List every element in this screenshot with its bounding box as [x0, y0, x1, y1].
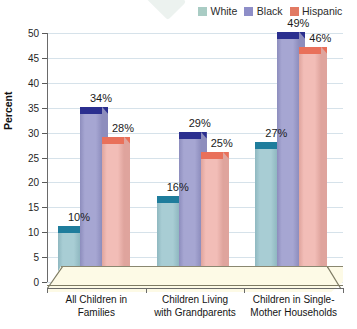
bar-top-cap [201, 152, 223, 159]
chart-legend: WhiteBlackHispanic [198, 6, 342, 17]
bar-value-label: 10% [68, 211, 90, 223]
x-axis-line [47, 288, 343, 289]
y-tick-mark [42, 158, 47, 159]
plot-area [47, 33, 343, 282]
bar-top-cap [58, 226, 80, 233]
bar-face [179, 138, 201, 282]
legend-swatch-black [244, 7, 253, 16]
x-tick-mark [146, 288, 147, 293]
legend-swatch-hispanic [290, 7, 299, 16]
bar-chart: WhiteBlackHispanic Percent 0510152025303… [0, 0, 357, 329]
legend-label-black: Black [257, 6, 283, 17]
bar-top-cap [277, 32, 299, 39]
bar-value-label: 25% [211, 137, 233, 149]
bar-face [201, 158, 223, 283]
bar-hispanic-group2 [201, 158, 223, 283]
y-tick-label: 50 [28, 28, 39, 39]
bar-value-label: 46% [309, 32, 331, 44]
bar-side [124, 137, 130, 276]
bar-value-label: 16% [167, 181, 189, 193]
x-category-label: Children Living with Grandparents [141, 294, 250, 319]
y-tick-label: 15 [28, 202, 39, 213]
bar-top-cap [179, 132, 201, 139]
floor-front-edge [47, 285, 343, 286]
y-tick-label: 35 [28, 102, 39, 113]
bar-black-group2 [179, 138, 201, 282]
y-tick-mark [42, 83, 47, 84]
bar-black-group3 [277, 38, 299, 282]
legend-swatch-white [198, 7, 207, 16]
y-tick-label: 5 [33, 252, 39, 263]
x-category-label: Children in Single- Mother Households [239, 294, 348, 319]
bar-top-cap [255, 142, 277, 149]
bar-face [299, 53, 321, 282]
bar-top-cap [299, 47, 321, 54]
bar-white-group3 [255, 148, 277, 282]
bar-side [321, 47, 327, 276]
y-tick-mark [42, 232, 47, 233]
floor-back-edge [61, 266, 343, 267]
x-tick-mark [343, 288, 344, 293]
y-tick-mark [42, 58, 47, 59]
scan-artifact [144, 0, 186, 20]
bar-value-label: 49% [287, 17, 309, 29]
floor-left-edge-icon [47, 266, 63, 290]
y-tick-mark [42, 33, 47, 34]
bar-face [255, 148, 277, 282]
bar-black-group1 [80, 113, 102, 282]
bar-top-cap [80, 107, 102, 114]
bar-value-label: 27% [265, 127, 287, 139]
bar-value-label: 34% [90, 92, 112, 104]
bar-face [102, 143, 124, 282]
bar-side [223, 152, 229, 277]
y-tick-mark [42, 182, 47, 183]
y-tick-mark [42, 257, 47, 258]
y-tick-mark [42, 282, 47, 283]
bar-face [80, 113, 102, 282]
y-tick-label: 20 [28, 177, 39, 188]
x-category-label: All Children in Families [42, 294, 151, 319]
y-tick-label: 45 [28, 52, 39, 63]
legend-item-white[interactable]: White [198, 6, 237, 17]
bar-top-cap [102, 137, 124, 144]
y-axis-line [47, 33, 48, 282]
y-tick-mark [42, 108, 47, 109]
y-tick-label: 30 [28, 127, 39, 138]
legend-label-hispanic: Hispanic [302, 6, 342, 17]
x-tick-mark [244, 288, 245, 293]
legend-item-black[interactable]: Black [244, 6, 282, 17]
y-tick-mark [42, 207, 47, 208]
y-tick-label: 40 [28, 77, 39, 88]
bar-value-label: 28% [112, 122, 134, 134]
y-tick-label: 10 [28, 227, 39, 238]
bar-value-label: 29% [189, 117, 211, 129]
x-tick-mark [47, 288, 48, 293]
bar-top-cap [157, 196, 179, 203]
y-tick-mark [42, 133, 47, 134]
y-axis-title: Percent [2, 91, 14, 130]
legend-label-white: White [211, 6, 238, 17]
y-tick-label: 25 [28, 152, 39, 163]
bar-hispanic-group3 [299, 53, 321, 282]
bar-face [277, 38, 299, 282]
floor-right-edge-icon [327, 266, 343, 290]
y-tick-label: 0 [33, 277, 39, 288]
legend-item-hispanic[interactable]: Hispanic [290, 6, 343, 17]
bar-hispanic-group1 [102, 143, 124, 282]
